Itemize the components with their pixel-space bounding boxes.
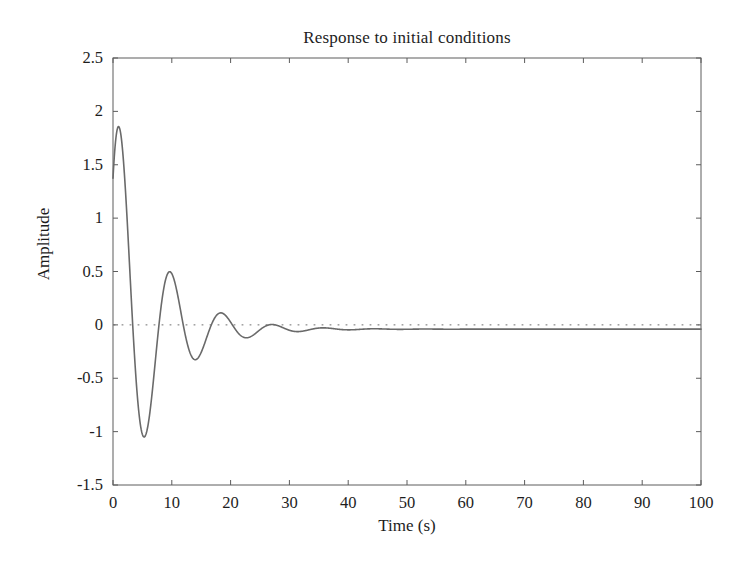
x-tick-label: 50 bbox=[399, 493, 416, 513]
tick-marks bbox=[113, 58, 701, 485]
y-tick-label: 1.5 bbox=[17, 155, 103, 175]
series-line-0 bbox=[113, 127, 701, 437]
x-tick-label: 0 bbox=[109, 493, 117, 513]
y-axis-label: Amplitude bbox=[34, 184, 54, 304]
y-tick-label: 1 bbox=[17, 208, 103, 228]
axes-frame bbox=[113, 58, 701, 485]
y-tick-label: 2 bbox=[17, 101, 103, 121]
y-tick-label: 0 bbox=[17, 315, 103, 335]
x-tick-label: 90 bbox=[634, 493, 651, 513]
x-tick-label: 100 bbox=[689, 493, 714, 513]
x-axis-label: Time (s) bbox=[113, 516, 701, 536]
plot-area bbox=[0, 0, 750, 565]
x-tick-label: 20 bbox=[222, 493, 239, 513]
x-tick-label: 10 bbox=[164, 493, 181, 513]
x-tick-label: 60 bbox=[458, 493, 475, 513]
y-tick-label: 2.5 bbox=[17, 48, 103, 68]
plot-frame bbox=[113, 58, 701, 485]
x-tick-label: 70 bbox=[516, 493, 533, 513]
figure-canvas: Response to initial conditions -1.5-1-0.… bbox=[0, 0, 750, 565]
y-tick-label: -1.5 bbox=[17, 475, 103, 495]
y-tick-label: 0.5 bbox=[17, 262, 103, 282]
x-tick-label: 40 bbox=[340, 493, 357, 513]
data-series bbox=[113, 127, 701, 437]
y-tick-label: -0.5 bbox=[17, 368, 103, 388]
x-tick-label: 30 bbox=[281, 493, 298, 513]
x-tick-label: 80 bbox=[575, 493, 592, 513]
y-tick-label: -1 bbox=[17, 422, 103, 442]
